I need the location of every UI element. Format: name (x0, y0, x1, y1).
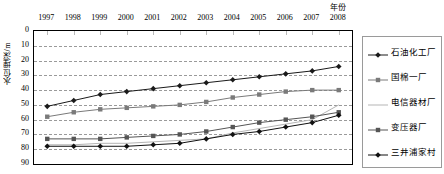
chart-figure: 年份 水位埋深/m 199719981999200020012002200320… (0, 0, 444, 174)
data-point (98, 137, 102, 141)
legend-label: 石油化工厂 (391, 45, 436, 57)
data-point (204, 129, 208, 133)
data-point (71, 98, 77, 104)
legend: 石油化工厂国棉一厂电信器材厂变压器厂三井浦家村 (362, 36, 442, 168)
data-point (257, 92, 261, 96)
x-tick-label: 2002 (164, 13, 194, 22)
data-point (230, 77, 236, 83)
data-point (309, 120, 315, 126)
x-tick-label: 2003 (190, 13, 220, 22)
x-tick-label: 2004 (217, 13, 247, 22)
x-tick-label: 1998 (58, 13, 88, 22)
series-lines (34, 31, 352, 164)
data-point (310, 115, 314, 119)
data-point (177, 83, 183, 89)
data-point (97, 143, 103, 149)
data-point (178, 103, 182, 107)
data-point (125, 106, 129, 110)
y-tick-label: 0 (9, 25, 29, 34)
legend-item-1[interactable]: 石油化工厂 (367, 45, 436, 57)
data-point (124, 89, 130, 95)
x-tick-label: 1999 (84, 13, 114, 22)
data-point (309, 68, 315, 74)
data-point (257, 120, 261, 124)
x-tick-label: 2001 (137, 13, 167, 22)
legend-label: 变压器厂 (391, 120, 427, 132)
y-tick-label: 60 (9, 114, 29, 123)
data-point (72, 137, 76, 141)
series-2 (45, 88, 341, 119)
data-point (72, 110, 76, 114)
x-tick-label: 2007 (296, 13, 326, 22)
data-point (256, 129, 262, 135)
data-point (310, 88, 314, 92)
y-tick-label: 30 (9, 69, 29, 78)
y-tick-label: 80 (9, 143, 29, 152)
y-tick-label: 90 (9, 158, 29, 167)
data-point (284, 89, 288, 93)
data-point (151, 104, 155, 108)
data-point (177, 141, 183, 147)
data-point (204, 100, 208, 104)
data-point (203, 80, 209, 86)
y-tick-label: 50 (9, 99, 29, 108)
data-point (283, 71, 289, 77)
legend-item-5[interactable]: 三井浦家村 (367, 145, 436, 157)
y-tick-label: 70 (9, 128, 29, 137)
x-tick-label: 2000 (111, 13, 141, 22)
y-tick-label: 20 (9, 55, 29, 64)
data-point (150, 142, 156, 148)
legend-item-2[interactable]: 国棉一厂 (367, 70, 427, 82)
x-tick-label: 2005 (243, 13, 273, 22)
legend-marker-icon (367, 121, 389, 131)
data-point (203, 136, 209, 142)
legend-marker-icon (367, 96, 389, 106)
plot-area (33, 30, 353, 165)
data-point (45, 137, 49, 141)
legend-item-3[interactable]: 电信器材厂 (367, 95, 436, 107)
data-point (284, 117, 288, 121)
data-point (124, 143, 130, 149)
data-point (150, 86, 156, 92)
legend-marker-icon (367, 146, 389, 156)
data-point (151, 134, 155, 138)
data-point (231, 125, 235, 129)
data-point (178, 132, 182, 136)
data-point (97, 92, 103, 98)
x-tick-label: 2006 (270, 13, 300, 22)
data-point (337, 88, 341, 92)
data-point (336, 64, 342, 70)
series-1 (44, 64, 341, 109)
data-point (256, 74, 262, 80)
data-point (283, 124, 289, 130)
y-tick-label: 10 (9, 40, 29, 49)
x-tick-label: 2008 (323, 13, 353, 22)
data-point (98, 107, 102, 111)
legend-item-4[interactable]: 变压器厂 (367, 120, 427, 132)
legend-marker-icon (367, 46, 389, 56)
data-point (44, 104, 50, 110)
legend-label: 电信器材厂 (391, 95, 436, 107)
y-tick-label: 40 (9, 84, 29, 93)
legend-label: 三井浦家村 (391, 145, 436, 157)
x-tick-label: 1997 (31, 13, 61, 22)
data-point (45, 115, 49, 119)
data-point (231, 95, 235, 99)
x-axis-title: 年份 (330, 1, 347, 12)
data-point (125, 135, 129, 139)
legend-marker-icon (367, 71, 389, 81)
legend-label: 国棉一厂 (391, 70, 427, 82)
